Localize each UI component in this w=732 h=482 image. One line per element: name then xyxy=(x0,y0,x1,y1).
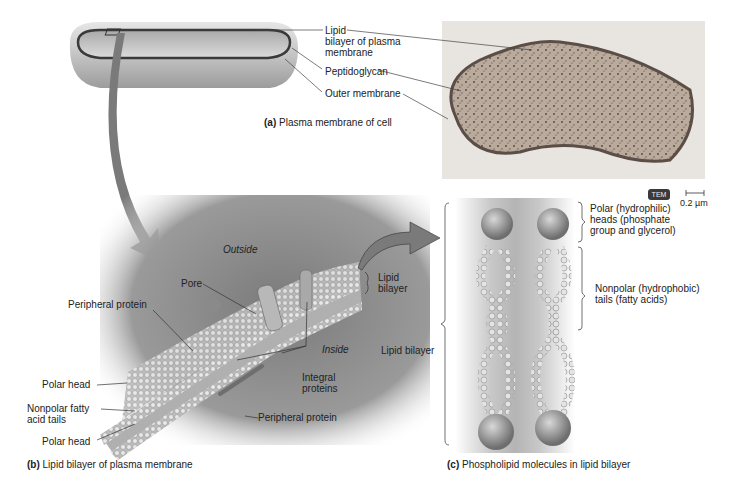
scale-bar-label: 0.2 µm xyxy=(680,198,708,209)
caption-c: (c) Phospholipid molecules in lipid bila… xyxy=(447,459,630,470)
label-line: Nonpolar (hydrophobic) xyxy=(595,283,700,294)
label-line: bilayer of plasma xyxy=(325,36,401,47)
label-peptidoglycan: Peptidoglycan xyxy=(325,66,388,77)
label-line: heads (phosphate xyxy=(590,214,676,225)
label-outer-membrane: Outer membrane xyxy=(325,88,401,99)
label-inside: Inside xyxy=(322,344,349,355)
label-line: tails (fatty acids) xyxy=(595,294,700,305)
label-polar-head-bottom: Polar head xyxy=(42,436,90,447)
label-polar-hydrophilic-heads: Polar (hydrophilic) heads (phosphate gro… xyxy=(590,203,676,236)
label-outside: Outside xyxy=(223,244,257,255)
label-line: Polar (hydrophilic) xyxy=(590,203,676,214)
caption-a: (a) Plasma membrane of cell xyxy=(264,117,392,128)
label-nonpolar-fatty-acid-tails: Nonpolar fatty acid tails xyxy=(27,403,89,425)
label-line: group and glycerol) xyxy=(590,225,676,236)
label-line: Lipid xyxy=(378,272,407,283)
bacterial-cell-illustration xyxy=(70,22,298,88)
label-line: acid tails xyxy=(27,414,89,425)
caption-b: (b) Lipid bilayer of plasma membrane xyxy=(27,459,193,470)
caption-text: Lipid bilayer of plasma membrane xyxy=(43,459,193,470)
tem-badge: TEM xyxy=(648,189,670,200)
scale-bar xyxy=(686,190,704,196)
label-peripheral-protein-top: Peripheral protein xyxy=(68,299,147,310)
label-line: proteins xyxy=(302,383,338,394)
caption-letter: (c) xyxy=(447,459,459,470)
label-pore: Pore xyxy=(181,278,202,289)
label-line: Lipid xyxy=(325,25,401,36)
phospholipid-illustration xyxy=(455,198,575,453)
label-line: Integral xyxy=(302,372,338,383)
caption-text: Phospholipid molecules in lipid bilayer xyxy=(462,459,630,470)
label-lipid-bilayer-plasma-membrane: Lipid bilayer of plasma membrane xyxy=(325,25,401,58)
label-line: membrane xyxy=(325,47,401,58)
label-nonpolar-hydrophobic-tails: Nonpolar (hydrophobic) tails (fatty acid… xyxy=(595,283,700,305)
label-lipid-bilayer-b: Lipid bilayer xyxy=(378,272,407,294)
label-polar-head-top: Polar head xyxy=(42,379,90,390)
caption-letter: (a) xyxy=(264,117,276,128)
caption-text: Plasma membrane of cell xyxy=(279,117,392,128)
label-lipid-bilayer-c: Lipid bilayer xyxy=(381,345,434,356)
label-integral-proteins: Integral proteins xyxy=(302,372,338,394)
label-peripheral-protein-bottom: Peripheral protein xyxy=(258,412,337,423)
label-line: bilayer xyxy=(378,283,407,294)
caption-letter: (b) xyxy=(27,459,40,470)
label-line: Nonpolar fatty xyxy=(27,403,89,414)
